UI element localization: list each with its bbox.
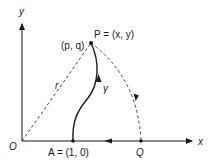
x-axis-label: x <box>197 136 204 147</box>
x-axis-left-arrow-icon <box>104 139 112 144</box>
point-q <box>139 139 143 143</box>
gamma-label: γ <box>103 83 109 94</box>
origin-label: O <box>9 141 17 152</box>
point-p <box>89 41 93 45</box>
point-q-label: Q <box>136 147 144 158</box>
y-axis-label: y <box>18 6 25 17</box>
curve-gamma <box>73 43 97 141</box>
point-a-label: A = (1, 0) <box>48 147 89 158</box>
point-a <box>71 139 75 143</box>
radius-line <box>22 43 91 141</box>
point-p-label: P = (x, y) <box>94 29 134 40</box>
point-pq-label: (p, q) <box>61 40 84 51</box>
diagram-canvas: y x O P = (x, y) (p, q) A = (1, 0) Q r γ <box>0 0 221 168</box>
arc-p-to-q <box>91 43 141 141</box>
